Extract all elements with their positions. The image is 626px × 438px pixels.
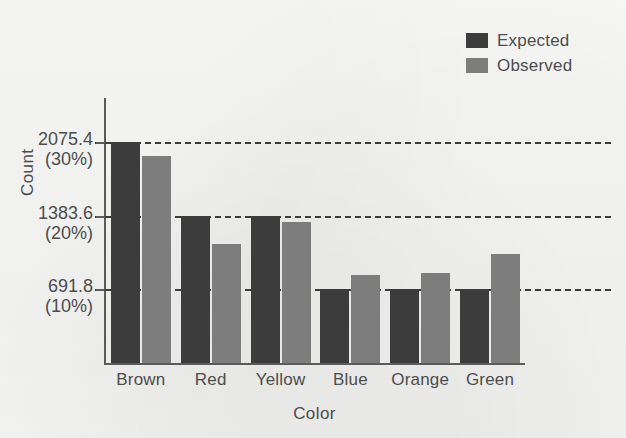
y-tick-percent: (10%) (45, 296, 93, 316)
legend-entry-observed: Observed (466, 53, 606, 78)
legend-swatch-observed (466, 58, 488, 73)
bar-groups: BrownRedYellowBlueOrangeGreen (106, 100, 525, 363)
x-axis-line (104, 363, 525, 365)
bar-group: Orange (385, 100, 455, 363)
legend-entry-expected: Expected (466, 28, 606, 53)
legend-label-observed: Observed (497, 56, 572, 76)
y-axis-tick (96, 142, 105, 144)
x-axis-tick-label: Orange (385, 370, 455, 390)
bar-observed-red[interactable] (212, 244, 241, 363)
y-axis-tick (96, 289, 105, 291)
bar-observed-green[interactable] (491, 254, 520, 363)
y-axis-tick-label: 691.8(10%) (45, 276, 93, 316)
y-tick-value: 1383.6 (38, 203, 93, 223)
bar-expected-green[interactable] (460, 289, 489, 363)
chart-page: Expected Observed Count 691.8(10%)1383.6… (0, 0, 626, 438)
y-axis-tick-label: 2075.4(30%) (38, 129, 93, 169)
bar-expected-brown[interactable] (111, 142, 140, 363)
bar-observed-yellow[interactable] (282, 222, 311, 363)
x-axis-tick-label: Blue (315, 370, 385, 390)
bar-group: Green (455, 100, 525, 363)
bar-observed-orange[interactable] (421, 273, 450, 364)
x-axis-tick-label: Yellow (246, 370, 316, 390)
bar-expected-blue[interactable] (320, 289, 349, 363)
legend-swatch-expected (466, 33, 488, 48)
bar-group: Yellow (246, 100, 316, 363)
bar-expected-orange[interactable] (390, 289, 419, 363)
x-axis-tick-label: Red (176, 370, 246, 390)
bar-expected-yellow[interactable] (251, 216, 280, 363)
y-tick-value: 2075.4 (38, 129, 93, 149)
bar-expected-red[interactable] (181, 216, 210, 363)
bar-observed-blue[interactable] (351, 275, 380, 363)
plot-area: BrownRedYellowBlueOrangeGreen (104, 98, 525, 365)
chart-legend: Expected Observed (466, 28, 606, 78)
legend-label-expected: Expected (497, 31, 569, 51)
x-axis-title: Color (104, 404, 525, 424)
y-tick-percent: (20%) (38, 223, 93, 243)
x-axis-tick-label: Brown (106, 370, 176, 390)
y-axis-tick-label: 1383.6(20%) (38, 203, 93, 243)
x-axis-tick-label: Green (455, 370, 525, 390)
bar-group: Brown (106, 100, 176, 363)
y-axis-tick (96, 216, 105, 218)
bar-group: Blue (315, 100, 385, 363)
y-tick-value: 691.8 (45, 276, 93, 296)
bar-observed-brown[interactable] (142, 156, 171, 363)
y-axis-title: Count (18, 149, 38, 196)
y-tick-percent: (30%) (38, 149, 93, 169)
bar-group: Red (176, 100, 246, 363)
